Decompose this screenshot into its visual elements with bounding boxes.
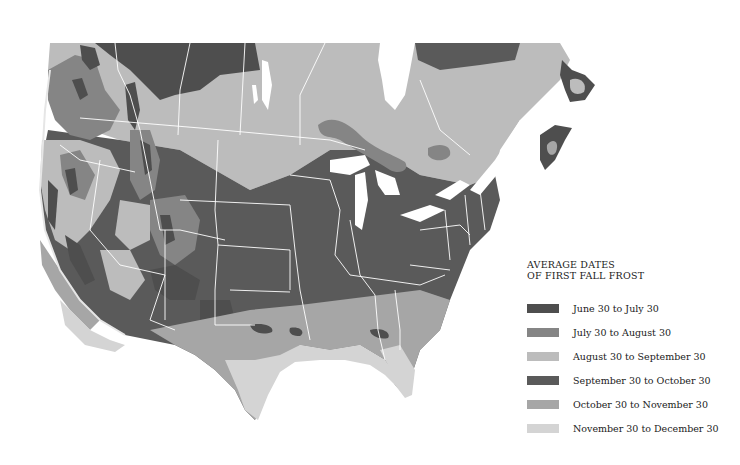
legend-item-august-september: August 30 to September 30 [527, 344, 737, 368]
legend-swatch [527, 424, 559, 433]
legend-label: September 30 to October 30 [573, 375, 711, 386]
legend-item-september-october: September 30 to October 30 [527, 368, 737, 392]
legend-item-july-august: July 30 to August 30 [527, 320, 737, 344]
legend-label: November 30 to December 30 [573, 423, 719, 434]
legend-item-november-december: November 30 to December 30 [527, 416, 737, 440]
legend-swatch [527, 304, 559, 313]
zone-quebec-patch [428, 145, 450, 160]
legend-swatch [527, 376, 559, 385]
legend-label: July 30 to August 30 [573, 327, 671, 338]
legend-swatch [527, 400, 559, 409]
legend-item-october-november: October 30 to November 30 [527, 392, 737, 416]
legend-list: June 30 to July 30 July 30 to August 30 … [527, 296, 737, 440]
legend-title-line2: OF FIRST FALL FROST [527, 270, 737, 281]
legend-label: August 30 to September 30 [573, 351, 706, 362]
legend-swatch [527, 328, 559, 337]
legend-label: October 30 to November 30 [573, 399, 708, 410]
legend: AVERAGE DATES OF FIRST FALL FROST June 3… [527, 259, 737, 440]
legend-swatch [527, 352, 559, 361]
legend-title-line1: AVERAGE DATES [527, 259, 737, 270]
legend-label: June 30 to July 30 [573, 303, 659, 314]
legend-item-june-july: June 30 to July 30 [527, 296, 737, 320]
